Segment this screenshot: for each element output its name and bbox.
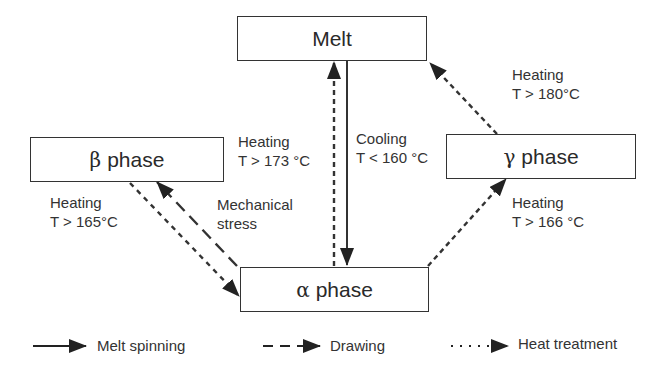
alpha-symbol: α (296, 278, 310, 302)
legend-melt-spinning: Melt spinning (97, 337, 185, 354)
node-alpha-phase: α phase (240, 267, 429, 312)
phase-transition-diagram: Melt β phase γ phase α phase Heating T >… (0, 0, 659, 369)
node-melt-label: Melt (312, 27, 352, 51)
label-alpha-to-beta: Mechanical stress (217, 195, 293, 233)
node-beta-phase: β phase (30, 137, 224, 182)
node-melt: Melt (237, 16, 427, 61)
legend-heat-treatment: Heat treatment (518, 335, 617, 352)
label-gamma-to-melt: Heating T > 180°C (512, 65, 580, 103)
node-beta-label: phase (107, 148, 164, 172)
label-melt-to-alpha: Cooling T < 160 °C (356, 129, 428, 167)
legend-drawing: Drawing (330, 337, 385, 354)
gamma-symbol: γ (503, 145, 515, 169)
arrow-gamma-to-melt (430, 63, 497, 134)
beta-symbol: β (90, 148, 102, 172)
node-alpha-label: phase (316, 278, 373, 302)
label-alpha-to-gamma: Heating T > 166 °C (512, 193, 584, 231)
label-alpha-to-melt: Heating T > 173 °C (238, 132, 310, 170)
arrow-alpha-to-gamma (428, 179, 506, 266)
node-gamma-label: phase (521, 145, 578, 169)
node-gamma-phase: γ phase (446, 134, 636, 179)
label-beta-to-alpha: Heating T > 165°C (50, 193, 118, 231)
